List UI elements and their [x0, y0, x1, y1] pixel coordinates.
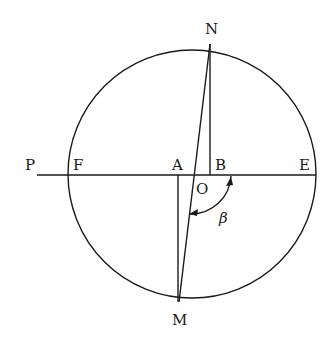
main-circle: [68, 50, 316, 298]
label-beta: β: [218, 209, 228, 227]
label-A: A: [171, 156, 183, 174]
label-N: N: [205, 20, 218, 38]
label-F: F: [73, 156, 83, 174]
label-O: O: [196, 180, 208, 198]
label-E: E: [299, 156, 310, 174]
label-M: M: [172, 311, 187, 329]
label-P: P: [25, 156, 35, 174]
chord-N-M: [179, 44, 210, 302]
label-B: B: [215, 156, 226, 174]
geometry-diagram: N M P F A B E O β: [0, 0, 336, 344]
arrowhead-top-icon: [226, 177, 233, 186]
